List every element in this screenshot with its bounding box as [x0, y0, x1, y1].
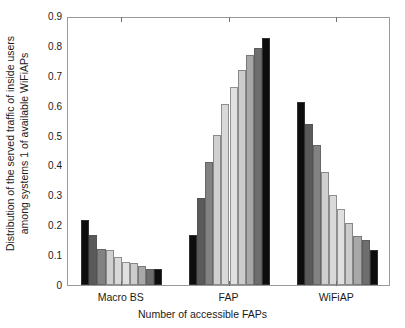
x-tick-mark-top [336, 17, 337, 22]
bar [122, 262, 130, 285]
bar [238, 70, 246, 285]
bar [337, 209, 345, 285]
x-axis-title: Number of accessible FAPs [0, 308, 405, 320]
bar [297, 102, 305, 285]
bar [106, 250, 114, 285]
bar [262, 38, 270, 285]
chart-figure: Distribution of the served traffic of in… [0, 0, 405, 328]
y-tick-label: 0.8 [48, 42, 62, 52]
bar [362, 240, 370, 285]
bar [345, 223, 353, 285]
bar [221, 104, 229, 285]
bar [138, 266, 146, 285]
x-tick-mark-bottom [336, 281, 337, 286]
plot-area [67, 17, 390, 286]
y-tick-label: 0.3 [48, 191, 62, 201]
x-tick-mark-top [121, 17, 122, 22]
bar [89, 235, 97, 285]
x-tick-mark-bottom [229, 281, 230, 286]
bar [313, 145, 321, 285]
bar [81, 220, 89, 285]
x-group-label-wifiap: WiFiAP [319, 291, 354, 303]
bar [329, 195, 337, 285]
x-tick-mark-bottom [121, 281, 122, 286]
bars-layer [68, 18, 389, 285]
bar [189, 235, 197, 285]
bar [321, 172, 329, 285]
bar [97, 249, 105, 285]
y-tick-label: 0.2 [48, 221, 62, 231]
x-group-label-fap: FAP [219, 291, 239, 303]
y-tick-label: 0.6 [48, 102, 62, 112]
bar [213, 135, 221, 285]
y-tick-label: 0.5 [48, 132, 62, 142]
y-tick-label: 0 [56, 281, 62, 291]
bar [197, 198, 205, 285]
bar [370, 250, 378, 285]
x-group-label-macro-bs: Macro BS [98, 291, 144, 303]
bar [205, 162, 213, 285]
y-tick-label: 0.4 [48, 161, 62, 171]
y-tick-label: 0.9 [48, 12, 62, 22]
bar [353, 236, 361, 285]
y-tick-label: 0.1 [48, 251, 62, 261]
y-tick-label: 0.7 [48, 72, 62, 82]
bar [130, 263, 138, 285]
bar [230, 87, 238, 285]
bar [146, 269, 154, 285]
bar [305, 124, 313, 285]
y-axis-ticks: 00.10.20.30.40.50.60.70.80.9 [0, 0, 67, 287]
bar [246, 55, 254, 285]
x-tick-mark-top [229, 17, 230, 22]
bar [154, 269, 162, 285]
bar [254, 48, 262, 285]
